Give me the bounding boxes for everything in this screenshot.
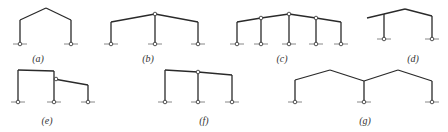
frame-c: (c) (230, 12, 348, 65)
pinned-support-icon (288, 100, 302, 104)
frame-b: (b) (104, 12, 205, 65)
frame-label-b: (b) (142, 53, 154, 65)
pinned-support-icon (64, 42, 78, 46)
pinned-support-icon (191, 42, 205, 46)
frame-label-d: (d) (407, 53, 419, 65)
hinge-joint-icon (54, 77, 58, 81)
pinned-support-icon (148, 42, 162, 46)
pinned-support-icon (225, 100, 239, 104)
pinned-support-icon (425, 37, 439, 41)
frame-member (316, 18, 341, 22)
frame-member (111, 14, 155, 22)
pinned-support-icon (334, 42, 348, 46)
frame-member (46, 8, 71, 20)
frame-member (237, 18, 261, 22)
frame-member (18, 70, 54, 71)
hinge-joint-icon (153, 12, 157, 16)
frame-d: (d) (367, 9, 439, 65)
frame-member (384, 9, 405, 14)
hinge-joint-icon (314, 16, 318, 20)
frame-member (405, 9, 432, 16)
structural-frames-diagram: (a)(b)(c)(d)(e)(f)(g) (0, 0, 448, 132)
frame-member (289, 14, 316, 18)
frame-member (198, 72, 232, 75)
frame-member (165, 70, 198, 72)
pinned-support-icon (377, 37, 391, 41)
frame-member (364, 70, 398, 81)
hinge-joint-icon (259, 16, 263, 20)
pinned-support-icon (357, 100, 371, 104)
pinned-support-icon (230, 42, 244, 46)
frame-label-f: (f) (199, 115, 209, 127)
pinned-support-icon (81, 100, 95, 104)
frames-layer: (a)(b)(c)(d)(e)(f)(g) (11, 8, 439, 127)
frame-member (367, 14, 384, 18)
pinned-support-icon (158, 100, 172, 104)
pinned-support-icon (282, 42, 296, 46)
frame-g: (g) (288, 70, 439, 127)
frame-member (54, 79, 88, 85)
frame-member (261, 14, 289, 18)
pinned-support-icon (47, 100, 61, 104)
frame-member (20, 8, 46, 20)
frame-label-c: (c) (276, 53, 288, 65)
frame-label-g: (g) (359, 115, 371, 127)
frame-member (398, 70, 432, 81)
pinned-support-icon (104, 42, 118, 46)
pinned-support-icon (425, 100, 439, 104)
pinned-support-icon (309, 42, 323, 46)
pinned-support-icon (13, 42, 27, 46)
frame-a: (a) (13, 8, 78, 65)
pinned-support-icon (11, 100, 25, 104)
frame-member (295, 70, 330, 80)
frame-f: (f) (158, 70, 239, 127)
frame-member (330, 70, 364, 81)
frame-e: (e) (11, 70, 95, 127)
frame-label-e: (e) (41, 115, 53, 127)
frame-member (155, 14, 198, 22)
hinge-joint-icon (287, 12, 291, 16)
frame-label-a: (a) (32, 53, 44, 65)
pinned-support-icon (254, 42, 268, 46)
hinge-joint-icon (196, 70, 200, 74)
pinned-support-icon (191, 100, 205, 104)
